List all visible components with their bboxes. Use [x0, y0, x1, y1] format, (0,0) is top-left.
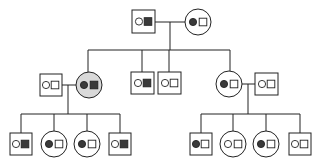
open-square-allele-icon: [88, 140, 96, 148]
filled-circle-allele-icon: [189, 18, 196, 25]
open-square-allele-icon: [55, 140, 63, 148]
individual-II-4-male: [158, 72, 181, 94]
filled-circle-allele-icon: [257, 140, 264, 147]
filled-square-allele-icon: [144, 18, 152, 26]
individual-III-6-female: [220, 131, 246, 157]
individual-II-1-male: [40, 74, 62, 96]
individual-III-8-male: [289, 133, 311, 155]
filled-circle-allele-icon: [220, 80, 227, 87]
open-circle-allele-icon: [161, 79, 168, 86]
open-circle-allele-icon: [42, 81, 49, 88]
individual-II-2-female-highlighted: [76, 72, 102, 98]
open-square-allele-icon: [267, 140, 275, 148]
individual-II-5-female: [216, 71, 242, 97]
individual-III-2-female: [41, 131, 67, 157]
filled-circle-allele-icon: [78, 140, 85, 147]
open-circle-allele-icon: [134, 79, 141, 86]
filled-square-allele-icon: [90, 81, 98, 89]
open-circle-allele-icon: [135, 18, 142, 25]
individual-III-5-male: [190, 133, 212, 155]
open-circle-allele-icon: [224, 140, 231, 147]
open-square-allele-icon: [199, 18, 207, 26]
open-circle-allele-icon: [111, 140, 118, 147]
individual-II-6-male: [255, 73, 278, 95]
pedigree-diagram: [0, 0, 320, 164]
open-square-allele-icon: [201, 140, 209, 148]
open-square-allele-icon: [170, 79, 178, 87]
filled-circle-allele-icon: [80, 81, 87, 88]
filled-square-allele-icon: [143, 79, 151, 87]
individual-III-3-female: [74, 131, 100, 157]
individual-II-3-male: [131, 72, 154, 94]
filled-circle-allele-icon: [192, 140, 199, 147]
open-square-allele-icon: [230, 80, 238, 88]
filled-circle-allele-icon: [45, 140, 52, 147]
individual-III-4-male: [109, 133, 131, 155]
filled-square-allele-icon: [120, 140, 128, 148]
open-square-allele-icon: [234, 140, 242, 148]
open-square-allele-icon: [300, 140, 308, 148]
individual-I-1-male: [132, 10, 155, 33]
open-circle-allele-icon: [258, 80, 265, 87]
open-circle-allele-icon: [12, 140, 19, 147]
filled-square-allele-icon: [21, 140, 29, 148]
open-circle-allele-icon: [291, 140, 298, 147]
open-square-allele-icon: [51, 81, 59, 89]
individual-I-2-female: [185, 9, 211, 35]
open-square-allele-icon: [267, 80, 275, 88]
individual-III-1-male: [10, 133, 32, 155]
individual-III-7-female: [253, 131, 279, 157]
